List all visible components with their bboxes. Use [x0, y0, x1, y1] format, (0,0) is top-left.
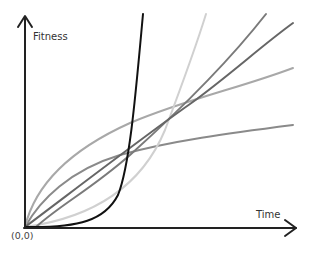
curve-linear [25, 23, 293, 227]
curve-exponential [25, 14, 143, 227]
curves [25, 14, 293, 227]
curve-concave-low [25, 125, 293, 227]
curve-steep-linear [36, 14, 266, 227]
axes [18, 16, 296, 236]
curve-convex-light [25, 14, 206, 227]
y-axis-label: Fitness [33, 31, 68, 42]
x-axis-label: Time [256, 209, 280, 220]
origin-label: (0,0) [11, 230, 34, 241]
